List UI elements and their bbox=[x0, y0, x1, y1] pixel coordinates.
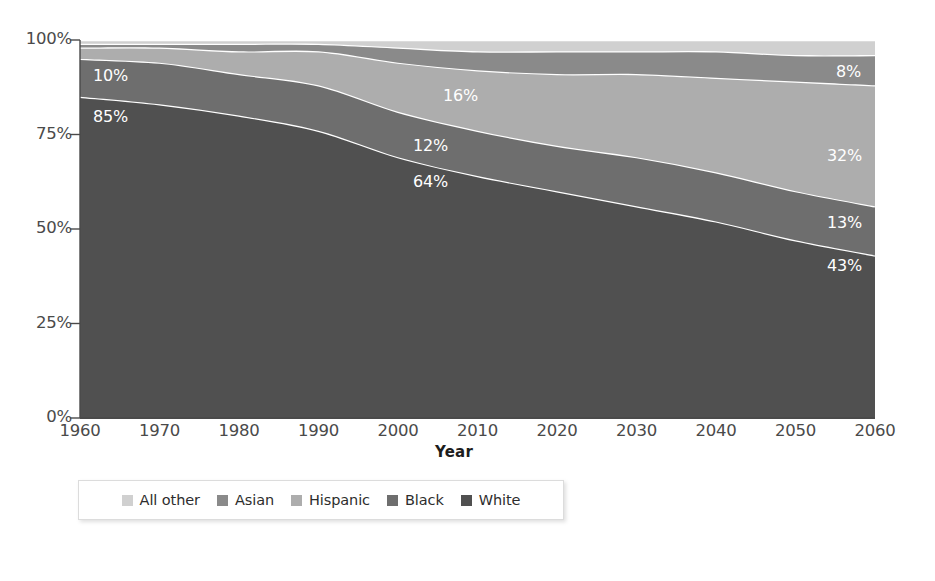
y-tick-label: 75% bbox=[12, 124, 72, 143]
legend-item-asian[interactable]: Asian bbox=[217, 492, 274, 508]
legend-swatch-icon bbox=[122, 495, 133, 506]
y-tick-label: 50% bbox=[12, 218, 72, 237]
legend-swatch-icon bbox=[217, 495, 228, 506]
x-tick-label: 1980 bbox=[204, 421, 274, 440]
x-tick-label: 1990 bbox=[284, 421, 354, 440]
area-data-label: 10% bbox=[93, 66, 128, 85]
area-data-label: 32% bbox=[827, 146, 862, 165]
area-data-label: 13% bbox=[827, 213, 862, 232]
x-tick-label: 2050 bbox=[761, 421, 831, 440]
stacked-area-chart: 100%75%50%25%0% 196019701980199020002010… bbox=[0, 0, 935, 581]
area-data-label: 64% bbox=[413, 172, 448, 191]
legend-swatch-icon bbox=[461, 495, 472, 506]
y-tick-label: 25% bbox=[12, 313, 72, 332]
legend-item-all-other[interactable]: All other bbox=[122, 492, 200, 508]
x-tick-label: 2020 bbox=[522, 421, 592, 440]
area-data-label: 16% bbox=[443, 86, 478, 105]
x-tick-label: 2040 bbox=[681, 421, 751, 440]
x-tick-label: 2000 bbox=[363, 421, 433, 440]
plot-area bbox=[0, 0, 935, 470]
x-tick-label: 2030 bbox=[602, 421, 672, 440]
legend-label: Asian bbox=[235, 492, 274, 508]
area-data-label: 85% bbox=[93, 107, 128, 126]
legend-label: Hispanic bbox=[309, 492, 370, 508]
legend-item-black[interactable]: Black bbox=[387, 492, 444, 508]
legend-label: White bbox=[479, 492, 521, 508]
x-tick-label: 1960 bbox=[45, 421, 115, 440]
x-tick-label: 2010 bbox=[443, 421, 513, 440]
area-data-label: 12% bbox=[413, 136, 448, 155]
x-tick-label: 2060 bbox=[840, 421, 910, 440]
legend-swatch-icon bbox=[387, 495, 398, 506]
chart-legend: All otherAsianHispanicBlackWhite bbox=[78, 480, 564, 520]
legend-item-white[interactable]: White bbox=[461, 492, 521, 508]
legend-item-hispanic[interactable]: Hispanic bbox=[291, 492, 370, 508]
x-axis-title: Year bbox=[435, 443, 473, 461]
area-data-label: 8% bbox=[836, 62, 861, 81]
area-data-label: 43% bbox=[827, 256, 862, 275]
legend-label: Black bbox=[405, 492, 444, 508]
y-tick-label: 100% bbox=[12, 29, 72, 48]
x-tick-label: 1970 bbox=[125, 421, 195, 440]
legend-swatch-icon bbox=[291, 495, 302, 506]
legend-label: All other bbox=[140, 492, 200, 508]
